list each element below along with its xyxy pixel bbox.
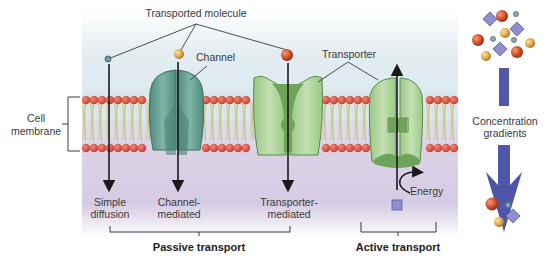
- cell-membrane-label-line1: Cell: [27, 112, 45, 124]
- lipid-head: [98, 96, 106, 104]
- lipid-head: [450, 96, 458, 104]
- solute-square: [392, 200, 402, 210]
- lipid-head: [242, 96, 250, 104]
- lipid-head: [450, 144, 458, 152]
- lipid-head: [114, 96, 122, 104]
- concentration-gradients-label-line2: gradients: [483, 127, 526, 139]
- simple-diffusion-label-line2: diffusion: [91, 208, 130, 220]
- lipid-head: [362, 144, 370, 152]
- yellow-molecule: [174, 49, 184, 59]
- channel-mediated-label-line1: Channel-: [158, 196, 201, 208]
- lipid-head: [434, 96, 442, 104]
- lipid-head: [362, 96, 370, 104]
- lipid-head: [426, 144, 434, 152]
- lipid-head: [138, 96, 146, 104]
- cell-membrane-bracket: [62, 97, 80, 151]
- lipid-head: [242, 144, 250, 152]
- lipid-head: [106, 96, 114, 104]
- lipid-head: [442, 144, 450, 152]
- lipid-head: [338, 144, 346, 152]
- transporter-label: Transporter: [322, 48, 376, 60]
- lipid-head: [218, 96, 226, 104]
- lipid-head: [106, 144, 114, 152]
- lipid-head: [210, 144, 218, 152]
- lipid-head: [330, 144, 338, 152]
- lipid-head: [82, 144, 90, 152]
- lipid-head: [90, 96, 98, 104]
- high-concentration-cluster: [472, 10, 535, 61]
- lipid-head: [330, 96, 338, 104]
- lipid-head: [90, 144, 98, 152]
- channel-protein: [149, 70, 203, 155]
- lipid-head: [442, 96, 450, 104]
- lipid-head: [322, 96, 330, 104]
- lipid-head: [210, 96, 218, 104]
- lipid-head: [346, 144, 354, 152]
- simple-diffusion-label-line1: Simple: [94, 196, 126, 208]
- transporter-mediated-label-line1: Transporter-: [260, 196, 318, 208]
- lipid-head: [226, 96, 234, 104]
- lipid-head: [122, 96, 130, 104]
- lipid-head: [130, 96, 138, 104]
- lipid-head: [130, 144, 138, 152]
- lipid-head: [234, 96, 242, 104]
- lipid-head: [114, 144, 122, 152]
- active-transporter-protein: [369, 78, 422, 168]
- concentration-gradients-label-line1: Concentration: [472, 115, 538, 127]
- lipid-head: [226, 144, 234, 152]
- lipid-head: [322, 144, 330, 152]
- lipid-head: [426, 96, 434, 104]
- gradient-bar: [499, 68, 509, 106]
- lipid-head: [346, 96, 354, 104]
- lipid-head: [434, 144, 442, 152]
- lipid-head: [122, 144, 130, 152]
- lipid-head: [354, 144, 362, 152]
- lipid-head: [218, 144, 226, 152]
- lipid-head: [138, 144, 146, 152]
- lipid-head: [338, 96, 346, 104]
- membrane-transport-diagram: Transported molecule Channel Transporter…: [0, 0, 546, 260]
- small-molecule: [105, 56, 111, 62]
- energy-label: Energy: [410, 185, 444, 197]
- active-transport-label: Active transport: [356, 241, 441, 253]
- passive-transport-label: Passive transport: [153, 241, 246, 253]
- lipid-head: [354, 96, 362, 104]
- lipid-head: [202, 144, 210, 152]
- lipid-head: [98, 144, 106, 152]
- cell-membrane-label-line2: membrane: [11, 125, 61, 137]
- channel-label: Channel: [196, 51, 235, 63]
- transporter-mediated-label-line2: mediated: [267, 208, 310, 220]
- transported-molecule-label: Transported molecule: [145, 7, 246, 19]
- lipid-head: [82, 96, 90, 104]
- channel-mediated-label-line2: mediated: [157, 208, 200, 220]
- lipid-head: [234, 144, 242, 152]
- red-molecule: [281, 49, 293, 61]
